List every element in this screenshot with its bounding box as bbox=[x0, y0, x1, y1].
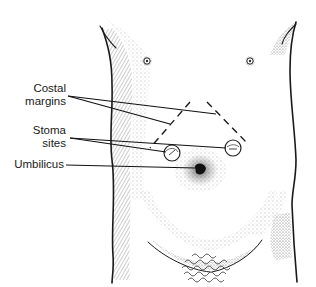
left-nipple bbox=[142, 56, 152, 66]
label-umbilicus: Umbilicus bbox=[14, 158, 64, 171]
right-stoma-site bbox=[225, 140, 241, 156]
left-stoma-site bbox=[164, 145, 180, 161]
label-stoma-sites: Stoma sites bbox=[33, 124, 66, 150]
leader-stoma-right bbox=[70, 138, 226, 148]
pubic-hair bbox=[182, 254, 230, 282]
abdomen-diagram: Costal margins Stoma sites Umbilicus bbox=[0, 0, 316, 287]
umbilicus bbox=[174, 148, 226, 192]
label-costal-margins: Costal margins bbox=[25, 82, 66, 108]
right-nipple bbox=[245, 56, 255, 66]
